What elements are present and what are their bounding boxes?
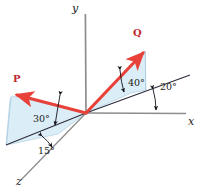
vector-q-label: Q xyxy=(133,28,142,38)
x-axis-label: x xyxy=(188,116,194,127)
figure-canvas: y x z P Q 30° 15° 40° 20° xyxy=(0,0,205,196)
angle-30-label: 30° xyxy=(33,114,50,124)
x-axis-line xyxy=(86,113,186,114)
y-axis-label: y xyxy=(72,3,78,14)
angle-20-label: 20° xyxy=(160,82,177,92)
angle-20-arc xyxy=(153,89,156,110)
angle-40-label: 40° xyxy=(128,78,145,88)
y-axis-line xyxy=(85,14,86,113)
z-axis-label: z xyxy=(16,176,22,187)
angle-15-label: 15° xyxy=(38,146,55,156)
vector-p-label: P xyxy=(13,74,21,84)
vector-diagram-svg xyxy=(0,0,205,196)
